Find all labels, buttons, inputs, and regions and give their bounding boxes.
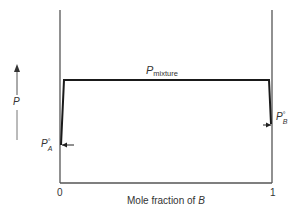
x-axis-label-prefix: Mole fraction of [127, 195, 198, 206]
phase-diagram [0, 0, 297, 218]
x-axis-label: Mole fraction of B [127, 195, 205, 206]
x-tick-0: 0 [57, 187, 63, 198]
pb-label-sub: B [283, 118, 288, 125]
mixture-label: Pmixture [146, 64, 178, 76]
left-arrow-icon [62, 143, 67, 148]
pb-label-sup: ° [283, 111, 288, 118]
pa-label: P°A [41, 138, 52, 152]
mixture-label-sub: mixture [153, 69, 178, 78]
pa-label-sub: A [48, 145, 53, 152]
pb-label-main: P [276, 111, 283, 122]
up-arrow-icon [14, 64, 20, 72]
pb-label: P°B [276, 111, 287, 125]
x-tick-1: 1 [270, 187, 276, 198]
x-axis-label-var: B [198, 195, 205, 206]
mixture-curve [61, 80, 271, 145]
pa-label-sup: ° [48, 138, 53, 145]
y-axis-label: P [13, 96, 20, 107]
pa-label-main: P [41, 138, 48, 149]
